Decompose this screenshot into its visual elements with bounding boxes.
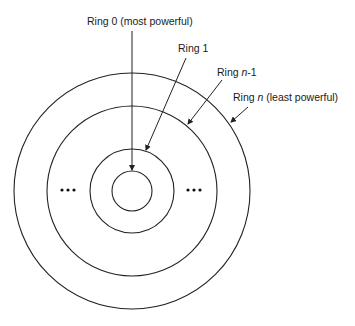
label-ring-1: Ring 1 <box>178 42 208 54</box>
ring-n-arrow <box>231 107 248 122</box>
ellipsis-left-dot <box>66 188 69 191</box>
label-suffix: -1 <box>247 66 256 78</box>
label-ring-0-note: (most powerful) <box>120 15 192 27</box>
ellipsis-left-dot <box>72 188 75 191</box>
ellipsis-left-dot <box>60 188 63 191</box>
label-suffix: (least powerful) <box>263 91 338 103</box>
ring-n-minus-1-arrow <box>188 80 222 124</box>
label-ring-n-minus-1: Ring n-1 <box>217 66 257 78</box>
label-ring-0: Ring 0 (most powerful) <box>87 15 193 27</box>
ring-0-circle <box>112 171 152 211</box>
ring-1-arrow <box>146 58 186 150</box>
ellipsis-right-dot <box>192 188 195 191</box>
label-prefix: Ring <box>217 66 242 78</box>
label-prefix: Ring <box>233 91 258 103</box>
ellipsis-right-dot <box>198 188 201 191</box>
label-ring-n: Ring n (least powerful) <box>233 91 338 103</box>
ellipsis-right-dot <box>186 188 189 191</box>
label-ring-1-name: Ring 1 <box>178 42 208 54</box>
label-ring-0-name: Ring 0 <box>87 15 120 27</box>
